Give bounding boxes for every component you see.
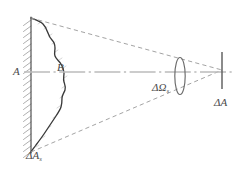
wall-hatching: [24, 20, 32, 158]
source-boundary-curve: [31, 18, 65, 152]
solid-angle-aperture: [175, 58, 185, 95]
label-A: A: [13, 66, 20, 77]
label-delta-A-s-subscript: s: [39, 155, 42, 162]
label-delta-A-base: ΔA: [214, 96, 227, 108]
label-delta-omega-s-subscript: s: [166, 87, 169, 94]
label-delta-A-s: ΔAs: [26, 150, 42, 163]
label-delta-omega-s: ΔΩs: [152, 82, 169, 95]
label-delta-omega-s-base: ΔΩ: [152, 81, 166, 93]
label-B: B: [57, 62, 64, 73]
boundary-stipple: [36, 22, 67, 147]
label-delta-A-s-base: ΔA: [26, 149, 39, 161]
label-delta-A: ΔA: [214, 97, 227, 110]
figure-root: A B ΔAs ΔΩs ΔA: [0, 0, 248, 175]
